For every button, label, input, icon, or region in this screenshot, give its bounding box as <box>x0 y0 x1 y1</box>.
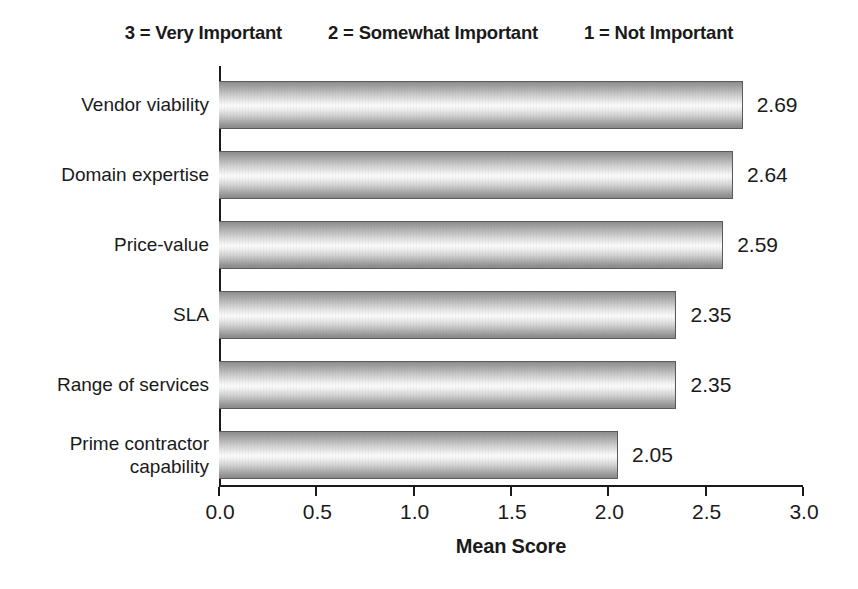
category-label-range-of-services: Range of services <box>9 373 209 396</box>
category-label-vendor-viability: Vendor viability <box>9 93 209 116</box>
value-axis-tick-label: 1.5 <box>477 500 547 524</box>
legend-entry-not-important: 1 = Not Important <box>584 22 733 44</box>
value-axis-tick <box>705 487 707 496</box>
value-axis-tick <box>413 487 415 496</box>
value-axis-tick-label: 3.0 <box>769 500 839 524</box>
importance-scale-legend: 3 = Very Important 2 = Somewhat Importan… <box>0 20 858 46</box>
category-label-prime-contractor-capability: Prime contractor capability <box>9 432 209 478</box>
legend-entry-very-important: 3 = Very Important <box>125 22 282 44</box>
bar-price-value <box>219 221 723 269</box>
value-axis-tick <box>218 487 220 496</box>
bar-value-label: 2.05 <box>632 443 673 467</box>
value-axis-tick-label: 0.0 <box>185 500 255 524</box>
value-axis-tick-label: 1.0 <box>380 500 450 524</box>
category-label-domain-expertise: Domain expertise <box>9 163 209 186</box>
category-axis-line <box>219 66 221 486</box>
category-label-price-value: Price-value <box>9 233 209 256</box>
bar-sla <box>219 291 676 339</box>
value-axis-tick <box>802 487 804 496</box>
bar-prime-contractor-capability <box>219 431 618 479</box>
category-axis-labels: Vendor viability Domain expertise Price-… <box>9 66 209 486</box>
bar-range-of-services <box>219 361 676 409</box>
value-axis-tick-label: 2.5 <box>672 500 742 524</box>
bar-value-label: 2.69 <box>757 93 798 117</box>
bar-value-label: 2.59 <box>737 233 778 257</box>
value-axis-tick-label: 2.0 <box>574 500 644 524</box>
bar-vendor-viability <box>219 81 743 129</box>
value-axis-tick <box>315 487 317 496</box>
bar-value-label: 2.35 <box>690 303 731 327</box>
value-axis-tick <box>510 487 512 496</box>
bar-value-label: 2.64 <box>747 163 788 187</box>
category-label-sla: SLA <box>9 303 209 326</box>
legend-entry-somewhat-important: 2 = Somewhat Important <box>328 22 538 44</box>
value-axis-tick-label: 0.5 <box>282 500 352 524</box>
bar-chart-figure: 3 = Very Important 2 = Somewhat Importan… <box>0 0 858 589</box>
bar-value-label: 2.35 <box>690 373 731 397</box>
plot-area: 2.69 2.64 2.59 2.35 2.35 2.05 0.00.51.01… <box>219 66 803 486</box>
bar-domain-expertise <box>219 151 733 199</box>
value-axis-tick <box>607 487 609 496</box>
value-axis-title: Mean Score <box>219 535 803 558</box>
